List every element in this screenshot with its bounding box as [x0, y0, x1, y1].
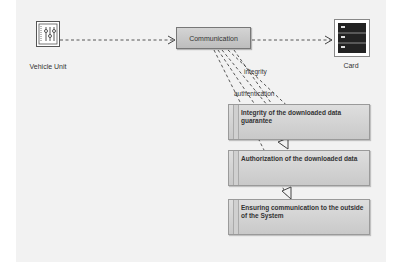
- server-rack-icon: [334, 19, 370, 57]
- requirement-box[interactable]: Authorization of the downloaded data: [228, 150, 370, 186]
- card-node[interactable]: [334, 19, 368, 57]
- requirement-stripe: [233, 151, 239, 185]
- requirement-box[interactable]: Integrity of the downloaded data guarant…: [228, 104, 370, 140]
- vehicle-unit-node[interactable]: [36, 21, 58, 58]
- requirement-stripe: [233, 200, 239, 234]
- control-sliders-icon: [36, 21, 60, 47]
- requirement-stripe: [233, 105, 239, 139]
- card-label: Card: [321, 62, 381, 69]
- authentication-edge-label: authentication: [234, 90, 274, 97]
- communication-node[interactable]: Communication: [176, 27, 251, 49]
- requirement-text: Authorization of the downloaded data: [241, 155, 365, 163]
- communication-label: Communication: [189, 35, 238, 42]
- requirement-box[interactable]: Ensuring communication to the outside of…: [228, 199, 370, 235]
- integrity-edge-label: integrity: [244, 68, 267, 75]
- requirement-text: Ensuring communication to the outside of…: [241, 204, 365, 220]
- vehicle-unit-label: Vehicle Unit: [18, 63, 78, 70]
- requirement-text: Integrity of the downloaded data guarant…: [241, 109, 365, 125]
